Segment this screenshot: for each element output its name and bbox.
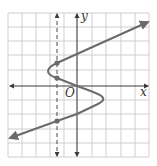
intersection-point-lower [54, 118, 59, 123]
y-axis-label: y [80, 9, 88, 23]
intersection-point-middle [54, 75, 59, 80]
grid [8, 13, 149, 157]
intersection-point-upper [54, 60, 59, 65]
origin-label: O [65, 86, 75, 100]
x-axis-label: x [140, 85, 147, 99]
relation-curve [10, 22, 148, 138]
graph: y x O [0, 0, 157, 166]
